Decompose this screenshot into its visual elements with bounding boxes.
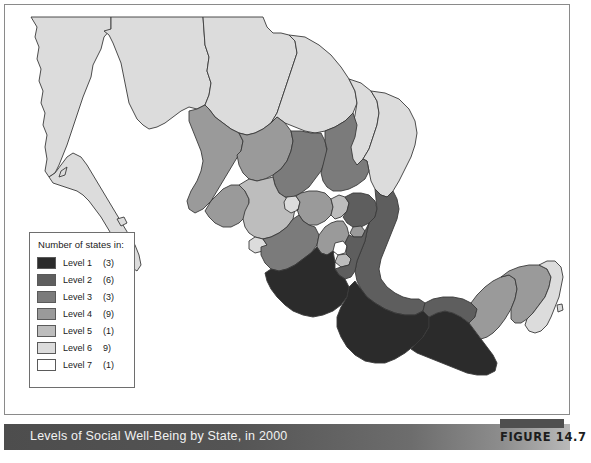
figure-number-badge: FIGURE 14.7 xyxy=(500,419,572,450)
legend-title: Number of states in: xyxy=(38,239,128,250)
legend-row-level-2: Level 2 (6) xyxy=(37,271,128,288)
legend-count-level-1: (3) xyxy=(103,258,114,268)
legend-count-level-2: (6) xyxy=(103,275,114,285)
legend-row-level-3: Level 3 (3) xyxy=(37,288,128,305)
legend-label-level-1: Level 1 xyxy=(63,258,103,268)
legend-label-level-4: Level 4 xyxy=(63,309,103,319)
legend-count-level-7: (1) xyxy=(103,360,114,370)
legend-row-level-1: Level 1 (3) xyxy=(37,254,128,271)
legend-swatch-level-2 xyxy=(37,274,56,286)
legend-count-level-6: 9) xyxy=(103,343,111,353)
legend-count-level-4: (9) xyxy=(103,309,114,319)
legend-swatch-level-4 xyxy=(37,308,56,320)
legend-count-level-5: (1) xyxy=(103,326,114,336)
region-campeche xyxy=(469,275,517,339)
legend-swatch-level-6 xyxy=(37,342,56,354)
figure-badge-bar xyxy=(500,419,564,428)
legend-row-level-6: Level 6 9) xyxy=(37,339,128,356)
legend-label-level-5: Level 5 xyxy=(63,326,103,336)
legend-swatch-level-5 xyxy=(37,325,56,337)
region-islet-cozumel xyxy=(557,304,563,312)
legend-swatch-level-7 xyxy=(37,359,56,371)
region-baja-california xyxy=(31,17,111,177)
legend-label-level-3: Level 3 xyxy=(63,292,103,302)
figure-caption-bar: Levels of Social Well-Being by State, in… xyxy=(4,424,570,450)
figure-number-label: FIGURE 14.7 xyxy=(500,430,587,444)
map-legend: Number of states in: Level 1 (3) Level 2… xyxy=(29,232,135,388)
figure-caption-text: Levels of Social Well-Being by State, in… xyxy=(30,429,288,443)
figure-frame: Number of states in: Level 1 (3) Level 2… xyxy=(4,4,570,415)
legend-count-level-3: (3) xyxy=(103,292,114,302)
legend-row-level-5: Level 5 (1) xyxy=(37,322,128,339)
legend-row-level-7: Level 7 (1) xyxy=(37,356,128,373)
legend-label-level-6: Level 6 xyxy=(63,343,103,353)
legend-label-level-7: Level 7 xyxy=(63,360,103,370)
legend-row-level-4: Level 4 (9) xyxy=(37,305,128,322)
legend-swatch-level-1 xyxy=(37,257,56,269)
legend-swatch-level-3 xyxy=(37,291,56,303)
legend-label-level-2: Level 2 xyxy=(63,275,103,285)
